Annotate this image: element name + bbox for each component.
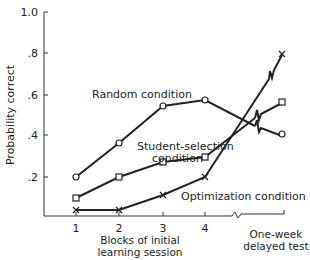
x-axis-title: Blocks of initial xyxy=(100,234,180,246)
series-random xyxy=(76,100,282,177)
y-axis xyxy=(44,12,48,216)
y-axis-title: Probability correct xyxy=(4,64,17,165)
x2-axis-title: One-week xyxy=(250,228,304,240)
student-selection-label: condition xyxy=(152,152,203,165)
x-tick-label: 4 xyxy=(202,222,209,235)
x-axis xyxy=(44,210,284,218)
y-tick-label: .8 xyxy=(28,47,39,60)
optimization-condition-label: Optimization condition xyxy=(181,190,306,203)
y-tick-label: .6 xyxy=(28,89,39,102)
x-axis-title: learning session xyxy=(97,246,182,258)
x2-axis-title: delayed test xyxy=(243,240,308,252)
y-tick-label: .4 xyxy=(28,129,39,142)
y-tick-label: 1.0 xyxy=(21,6,39,19)
x-tick-label: 1 xyxy=(73,222,80,235)
random-condition-label: Random condition xyxy=(92,88,192,101)
y-tick-label: .2 xyxy=(28,171,39,184)
chart: 1.0 .8 .6 .4 .2 1 2 3 4 Probability corr… xyxy=(0,0,310,260)
series-optimization xyxy=(76,55,282,210)
random-markers xyxy=(73,97,285,180)
